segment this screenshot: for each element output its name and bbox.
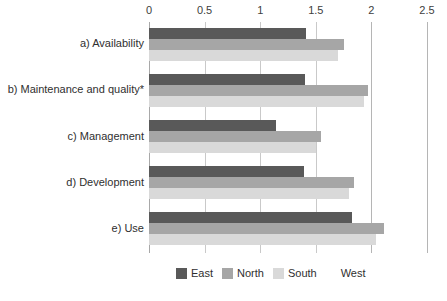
legend-label: South: [288, 268, 317, 279]
legend-swatch-icon: [273, 268, 284, 279]
x-tick-label: 2: [368, 4, 374, 16]
bar-east: [149, 74, 305, 85]
bar-south: [149, 234, 376, 245]
bar-east: [149, 28, 306, 39]
legend-label: West: [341, 268, 366, 279]
bar-chart: 00.511.522.5 a) Availabilityb) Maintenan…: [0, 0, 447, 301]
bar-north: [149, 131, 321, 142]
category-label: a) Availability: [0, 37, 144, 49]
chart-legend: EastNorthSouthWest: [176, 268, 366, 279]
bar-east: [149, 120, 276, 131]
bar-east: [149, 212, 352, 223]
category-label: e) Use: [0, 222, 144, 234]
bar-north: [149, 177, 354, 188]
plot-area: [149, 22, 427, 253]
bar-south: [149, 188, 349, 199]
bar-north: [149, 85, 368, 96]
legend-entry-west[interactable]: West: [326, 268, 366, 279]
bar-north: [149, 39, 344, 50]
x-tick-label: 0: [146, 4, 152, 16]
bar-south: [149, 50, 338, 61]
bar-group: [149, 166, 427, 199]
legend-swatch-icon: [222, 268, 233, 279]
bar-group: [149, 212, 427, 245]
x-tick-label: 0.5: [197, 4, 212, 16]
bar-south: [149, 142, 316, 153]
legend-entry-east[interactable]: East: [176, 268, 213, 279]
category-label: c) Management: [0, 130, 144, 142]
legend-swatch-icon: [176, 268, 187, 279]
bar-east: [149, 166, 304, 177]
category-label: b) Maintenance and quality*: [0, 83, 144, 95]
bar-south: [149, 96, 364, 107]
legend-swatch-icon: [326, 268, 337, 279]
x-tick-label: 1.5: [308, 4, 323, 16]
bar-group: [149, 28, 427, 61]
legend-label: North: [237, 268, 264, 279]
bar-north: [149, 223, 384, 234]
bar-group: [149, 74, 427, 107]
x-tick-label: 2.5: [419, 4, 434, 16]
category-label: d) Development: [0, 176, 144, 188]
legend-entry-south[interactable]: South: [273, 268, 317, 279]
bar-group: [149, 120, 427, 153]
gridline-2-5: [427, 22, 428, 253]
x-tick-label: 1: [257, 4, 263, 16]
legend-entry-north[interactable]: North: [222, 268, 264, 279]
legend-label: East: [191, 268, 213, 279]
